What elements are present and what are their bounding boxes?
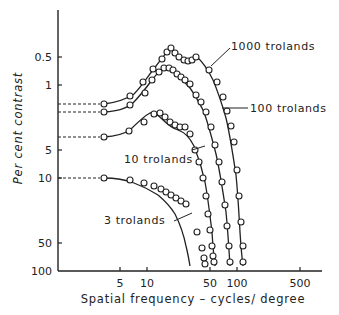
y-axis-title: Per cent contrast [11,72,25,184]
label-100-trolands: 100 trolands [250,102,327,115]
asymptote-lines [58,104,100,178]
y-tick-label: 10 [38,172,52,185]
label-1000-trolands: 1000 trolands [231,40,315,53]
y-tick-label: 50 [38,237,52,250]
curve-100-trolands [104,67,230,266]
y-tick-label: 0.5 [35,51,53,64]
x-tick-label: 10 [140,277,154,290]
y-tick-label: 5 [45,144,52,157]
y-tick-labels: 0.5 1 5 10 50 100 [31,51,52,278]
x-tick-label: 5 [117,277,124,290]
label-3-trolands: 3 trolands [104,214,165,227]
x-tick-label: 50 [203,277,217,290]
x-tick-label: 500 [290,277,311,290]
x-axis-title: Spatial frequency – cycles/ degree [81,292,306,306]
y-tick-label: 100 [31,265,52,278]
x-tick-label: 100 [227,277,248,290]
label-10-trolands: 10 trolands [124,153,193,166]
contrast-sensitivity-chart: 0.5 1 5 10 50 100 5 10 50 100 500 Spatia… [0,0,339,315]
x-tick-labels: 5 10 50 100 500 [117,277,311,290]
y-tick-label: 1 [45,79,52,92]
